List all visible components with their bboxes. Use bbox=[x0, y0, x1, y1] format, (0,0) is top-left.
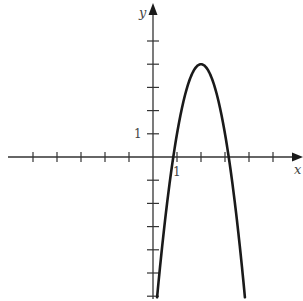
y-axis-arrow-icon bbox=[149, 3, 158, 15]
parabola-graph: y x 1 1 bbox=[0, 0, 303, 301]
x-axis-label: x bbox=[294, 162, 302, 177]
x-axis-arrow-icon bbox=[292, 153, 303, 162]
parabola-curve bbox=[157, 64, 245, 297]
y-axis-label: y bbox=[138, 5, 147, 20]
y-tick-label-1: 1 bbox=[134, 127, 142, 141]
x-tick-label-1: 1 bbox=[173, 165, 181, 179]
